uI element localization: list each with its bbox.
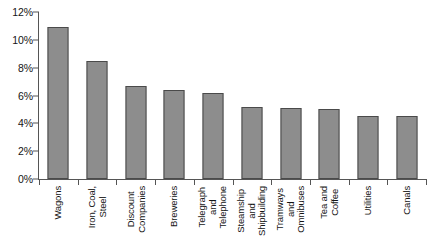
x-axis-tick-mark <box>387 179 388 185</box>
x-axis-tick-mark <box>39 179 40 185</box>
y-axis-tick-mark <box>33 12 39 13</box>
x-axis-tick-mark <box>116 179 117 185</box>
x-axis-tick-label: DiscountCompanies <box>125 186 146 233</box>
x-axis-label-slot: TramwaysandOmnibuses <box>271 186 310 247</box>
bar-chart: 0%2%4%6%8%10%12% WagonsIron, Coal,SteelD… <box>0 0 432 247</box>
bar-slot <box>194 12 233 179</box>
bar <box>241 107 262 179</box>
y-axis-tick-label: 12% <box>12 7 33 18</box>
y-axis-tick-mark <box>33 95 39 96</box>
bar <box>125 86 146 179</box>
x-axis-tick-mark <box>349 179 350 185</box>
bar-slot <box>310 12 349 179</box>
y-axis-tick-label: 0% <box>18 174 33 185</box>
y-axis-tick-label: 2% <box>18 146 33 157</box>
x-axis-tick-mark <box>310 179 311 185</box>
x-axis-tick-mark <box>78 179 79 185</box>
bar <box>280 108 301 179</box>
bar <box>48 27 69 179</box>
x-axis-label-slot: Breweries <box>155 186 194 247</box>
x-axis-label-slot: Iron, Coal,Steel <box>78 186 117 247</box>
y-axis-tick-label: 4% <box>18 118 33 129</box>
y-axis-tick-mark <box>33 67 39 68</box>
x-axis-tick-label: SteamshipandShipbuilding <box>236 186 268 236</box>
bar-slot <box>116 12 155 179</box>
x-axis-tick-mark <box>271 179 272 185</box>
x-axis-tick-label: Wagons <box>53 186 64 220</box>
y-axis-tick-label: 8% <box>18 62 33 73</box>
bar-slot <box>78 12 117 179</box>
y-axis-tick-mark <box>33 39 39 40</box>
bar-slot <box>271 12 310 179</box>
x-axis-tick-mark <box>426 179 427 185</box>
y-axis-tick-mark <box>33 123 39 124</box>
x-axis-tick-label: Utilities <box>363 186 374 215</box>
x-axis-label-slot: Wagons <box>39 186 78 247</box>
x-axis-label-slot: SteamshipandShipbuilding <box>233 186 272 247</box>
y-axis-tick-mark <box>33 151 39 152</box>
bar <box>396 116 417 179</box>
x-axis-tick-label: Breweries <box>169 186 180 227</box>
x-axis-tick-mark <box>194 179 195 185</box>
x-axis-label-slot: Utilities <box>349 186 388 247</box>
x-axis-tick-label: TramwaysandOmnibuses <box>275 186 307 233</box>
x-axis-tick-label: Tea andCoffee <box>319 186 340 219</box>
bar <box>164 90 185 179</box>
x-axis-tick-mark <box>233 179 234 185</box>
y-axis-tick-label: 10% <box>12 35 33 46</box>
bar <box>203 93 224 179</box>
x-axis: WagonsIron, Coal,SteelDiscountCompaniesB… <box>39 186 426 247</box>
bar-slot <box>349 12 388 179</box>
x-axis-tick-mark <box>155 179 156 185</box>
x-axis-label-slot: Canals <box>387 186 426 247</box>
bar-slot <box>387 12 426 179</box>
y-axis: 0%2%4%6%8%10%12% <box>0 0 36 247</box>
bar <box>357 116 378 179</box>
plot-area <box>39 12 426 179</box>
x-axis-tick-label: TelegraphandTelephone <box>197 186 229 229</box>
x-axis-label-slot: Tea andCoffee <box>310 186 349 247</box>
bar-slot <box>155 12 194 179</box>
bar-slot <box>39 12 78 179</box>
x-axis-tick-label: Iron, Coal,Steel <box>87 186 108 228</box>
bar-slot <box>233 12 272 179</box>
x-axis-label-slot: DiscountCompanies <box>116 186 155 247</box>
y-axis-tick-label: 6% <box>18 90 33 101</box>
bar <box>87 61 108 179</box>
x-axis-tick-label: Canals <box>401 186 412 215</box>
bar <box>319 109 340 179</box>
x-axis-label-slot: TelegraphandTelephone <box>194 186 233 247</box>
